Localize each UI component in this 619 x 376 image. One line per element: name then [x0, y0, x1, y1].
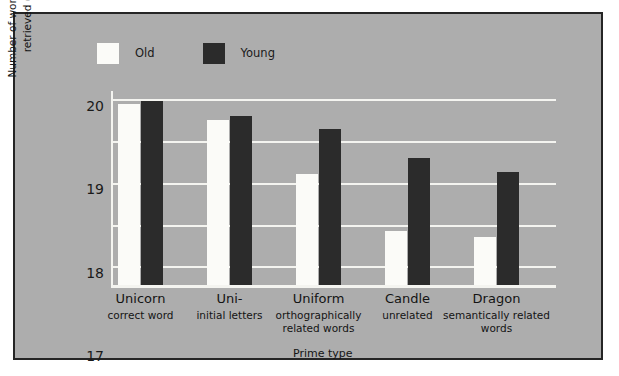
bar-uni-young	[230, 116, 252, 285]
bar-dragon-old	[474, 237, 496, 285]
x-axis-title: Prime type	[293, 347, 353, 360]
bar-uniform-old	[296, 174, 318, 285]
y-tick-label-20: 20	[86, 98, 104, 114]
x-category-main-label: Dragon	[437, 292, 557, 307]
bar-uni-old	[207, 120, 229, 285]
legend-label-old: Old	[135, 46, 155, 60]
bar-unicorn-old	[118, 104, 140, 285]
legend-swatch-young	[203, 43, 225, 64]
bar-candle-young	[408, 158, 430, 285]
legend-item-old: Old	[97, 43, 155, 64]
x-category-sub-label: semantically related words	[437, 309, 557, 334]
bar-candle-old	[385, 231, 407, 285]
gridline-20: 20	[113, 99, 556, 101]
x-axis-baseline	[111, 285, 556, 288]
legend-label-young: Young	[241, 46, 275, 60]
chart-plate: Old Young Number of words successfully r…	[13, 12, 603, 360]
legend: Old Young	[97, 42, 275, 64]
figure-canvas: Old Young Number of words successfully r…	[0, 0, 619, 376]
y-axis-title: Number of words successfully retrieved (…	[5, 0, 35, 94]
y-tick-label-17: 17	[86, 348, 104, 364]
y-tick-label-19: 19	[86, 182, 104, 198]
bar-uniform-young	[319, 129, 341, 285]
bar-dragon-young	[497, 172, 519, 285]
legend-swatch-old	[97, 43, 119, 64]
x-category-dragon: Dragonsemantically related words	[437, 292, 557, 334]
bar-unicorn-young	[141, 101, 163, 285]
y-tick-label-18: 18	[86, 265, 104, 281]
legend-item-young: Young	[203, 43, 275, 64]
plot-area: 1617181920	[111, 91, 556, 287]
y-axis-line	[111, 91, 113, 287]
